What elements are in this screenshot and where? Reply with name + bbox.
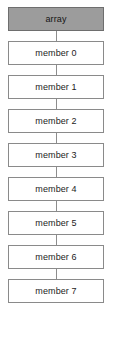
member-node-label: member 7 [35, 287, 76, 296]
member-node: member 5 [8, 211, 104, 235]
member-node: member 3 [8, 143, 104, 167]
member-node-label: member 0 [35, 49, 76, 58]
member-node-label: member 6 [35, 253, 76, 262]
member-node-label: member 2 [35, 117, 76, 126]
connector-line [56, 235, 57, 245]
member-node: member 6 [8, 245, 104, 269]
connector-line [56, 167, 57, 177]
member-node: member 4 [8, 177, 104, 201]
array-header-node: array [8, 7, 104, 31]
member-node: member 1 [8, 75, 104, 99]
array-header-label: array [45, 15, 66, 24]
member-node-label: member 3 [35, 151, 76, 160]
connector-line [56, 133, 57, 143]
member-node: member 7 [8, 279, 104, 303]
connector-line [56, 31, 57, 41]
connector-line [56, 201, 57, 211]
member-node: member 0 [8, 41, 104, 65]
member-node-label: member 5 [35, 219, 76, 228]
connector-line [56, 99, 57, 109]
connector-line [56, 269, 57, 279]
member-node-label: member 1 [35, 83, 76, 92]
connector-line [56, 65, 57, 75]
array-structure-diagram: array member 0member 1member 2member 3me… [0, 0, 113, 337]
member-node: member 2 [8, 109, 104, 133]
member-node-label: member 4 [35, 185, 76, 194]
